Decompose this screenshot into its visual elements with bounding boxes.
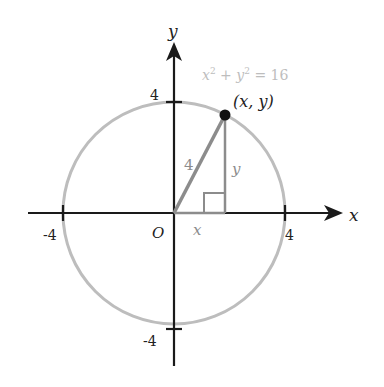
vertical-leg-label: y — [231, 160, 241, 178]
eq-x: x — [202, 67, 210, 83]
tick-label-x-pos: 4 — [285, 227, 294, 243]
circle-diagram: y x O -4 4 4 -4 x2 + y2 = 16 (x, y) 4 y … — [0, 0, 384, 387]
tick-label-x-neg: -4 — [43, 227, 57, 243]
tick-label-y-pos: 4 — [150, 87, 159, 103]
eq-equals: = 16 — [250, 67, 289, 83]
point-label: (x, y) — [233, 92, 274, 111]
point-marker — [220, 110, 231, 121]
eq-plus: + — [216, 67, 237, 83]
y-axis-label: y — [167, 21, 178, 41]
x-axis-label: x — [349, 205, 359, 225]
tick-label-y-neg: -4 — [143, 333, 157, 349]
horizontal-leg-label: x — [193, 221, 202, 239]
hypotenuse-label: 4 — [184, 156, 194, 174]
origin-label: O — [152, 224, 164, 242]
right-angle-marker — [204, 193, 225, 213]
circle-equation: x2 + y2 = 16 — [202, 66, 288, 83]
hypotenuse — [174, 115, 225, 213]
